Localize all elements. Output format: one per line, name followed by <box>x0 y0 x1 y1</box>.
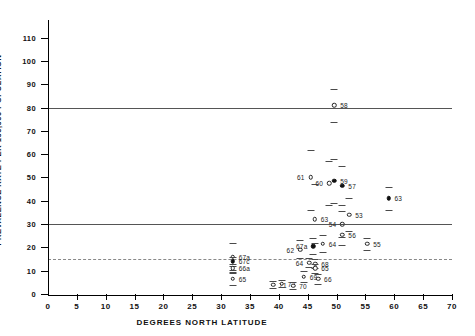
marker-open <box>313 266 318 271</box>
error-bar-cap-bottom <box>315 274 322 275</box>
error-bar-cap-bottom <box>229 243 236 244</box>
error-bar-cap-top <box>326 205 333 206</box>
marker-filled <box>340 183 345 188</box>
data-point-label: 70 <box>299 282 307 289</box>
error-bar-cap-bottom <box>339 224 346 225</box>
x-axis-tick-label: 40 <box>274 302 284 311</box>
y-axis-tick <box>41 84 48 85</box>
x-axis-tick-label: 60 <box>389 302 399 311</box>
x-axis-tick-label: 15 <box>130 302 140 311</box>
error-bar-cap-top <box>339 237 346 238</box>
error-bar-cap-top <box>278 287 285 288</box>
error-bar-cap-bottom <box>339 166 346 167</box>
y-axis-tick-label: 90 <box>27 80 36 89</box>
y-axis-tick-label: 80 <box>27 103 36 112</box>
y-axis-tick <box>41 108 48 109</box>
x-axis-title: DEGREES NORTH LATITUDE <box>137 318 268 327</box>
marker-open <box>332 103 337 108</box>
marker-open <box>279 281 284 286</box>
error-bar-cap-top <box>315 284 322 285</box>
y-axis-tick-label: 110 <box>23 33 36 42</box>
marker-open <box>308 175 313 180</box>
y-axis-tick <box>41 201 48 202</box>
marker-open <box>271 282 276 287</box>
error-bar-cap-bottom <box>346 198 353 199</box>
marker-open <box>365 242 370 247</box>
plot-area: 0102030405060708090100110051015202530354… <box>48 26 452 294</box>
x-axis-tick-label: 55 <box>360 302 370 311</box>
data-point-label: 62 <box>287 246 295 253</box>
y-axis-tick-label: 100 <box>22 56 36 65</box>
data-point-label: 57 <box>348 182 356 189</box>
error-bar-cap-bottom <box>312 259 319 260</box>
y-axis-tick <box>41 271 48 272</box>
x-axis-tick-label: 10 <box>101 302 111 311</box>
marker-open <box>320 242 325 247</box>
x-axis-tick-label: 70 <box>447 302 457 311</box>
scatter-chart-figure: 0102030405060708090100110051015202530354… <box>0 0 475 336</box>
error-bar-cap-top <box>307 210 314 211</box>
error-bar-cap-top <box>364 250 371 251</box>
data-point-label: 55 <box>373 240 381 247</box>
error-bar-cap-top <box>310 254 317 255</box>
error-bar-cap-bottom <box>229 257 236 258</box>
y-axis-title: PREVALENCE RATE PER 100,000 POPULATION <box>0 55 3 246</box>
data-point-label: 63 <box>321 216 329 223</box>
y-axis-tick <box>41 294 48 295</box>
error-bar-cap-top <box>339 245 346 246</box>
data-point-label: 60 <box>315 180 323 187</box>
marker-filled <box>311 244 316 249</box>
data-point-label: 67c <box>239 258 250 265</box>
error-bar-cap-top <box>346 231 353 232</box>
marker-open <box>347 213 352 218</box>
y-axis-tick-label: 0 <box>31 290 36 299</box>
y-axis-tick <box>41 38 48 39</box>
error-bar-cap-bottom <box>297 240 304 241</box>
error-bar-cap-top <box>319 252 326 253</box>
x-axis-tick-label: 45 <box>303 302 313 311</box>
error-bar-cap-bottom <box>307 150 314 151</box>
error-bar-cap-top <box>290 289 297 290</box>
data-point-label: 64 <box>329 240 337 247</box>
y-axis-tick <box>41 177 48 178</box>
error-bar-cap-top <box>331 122 338 123</box>
data-point-label: 66a <box>239 265 250 272</box>
error-bar-cap-top <box>270 288 277 289</box>
y-axis-tick-label: 50 <box>27 173 36 182</box>
data-point-label: 53 <box>355 211 363 218</box>
error-bar-cap-bottom <box>300 271 307 272</box>
y-axis-tick-label: 10 <box>27 266 36 275</box>
error-bar-cap-top <box>331 203 338 204</box>
error-bar-cap-top <box>339 205 346 206</box>
y-axis-tick <box>41 61 48 62</box>
error-bar-cap-bottom <box>326 161 333 162</box>
error-bar-cap-bottom <box>229 272 236 273</box>
upper-solid-line <box>48 108 452 109</box>
error-bar-cap-bottom <box>229 264 236 265</box>
data-point-label: 65 <box>321 265 329 272</box>
data-point-label: 65 <box>239 275 247 282</box>
x-axis-tick-label: 65 <box>418 302 428 311</box>
data-point-label: 54 <box>329 221 337 228</box>
x-axis-line <box>48 295 452 296</box>
data-point-label: 66 <box>324 275 332 282</box>
error-bar-cap-top <box>385 210 392 211</box>
error-bar-cap-top <box>300 282 307 283</box>
error-bar-cap-bottom <box>310 238 317 239</box>
y-axis-tick-label: 30 <box>27 220 36 229</box>
x-axis-tick-label: 5 <box>74 302 79 311</box>
data-point-label: 56 <box>348 231 356 238</box>
marker-filled <box>386 196 391 201</box>
data-point-label: 58 <box>340 102 348 109</box>
error-bar-cap-bottom <box>385 187 392 188</box>
middle-solid-line <box>48 224 452 225</box>
marker-open <box>312 217 317 222</box>
x-axis-tick-label: 50 <box>332 302 342 311</box>
marker-open <box>230 266 235 271</box>
marker-open <box>291 284 296 289</box>
x-axis-tick-label: 0 <box>46 302 51 311</box>
error-bar-cap-bottom <box>339 211 346 212</box>
x-axis-tick <box>452 294 453 300</box>
x-axis-tick-label: 25 <box>187 302 197 311</box>
marker-open <box>301 274 306 279</box>
